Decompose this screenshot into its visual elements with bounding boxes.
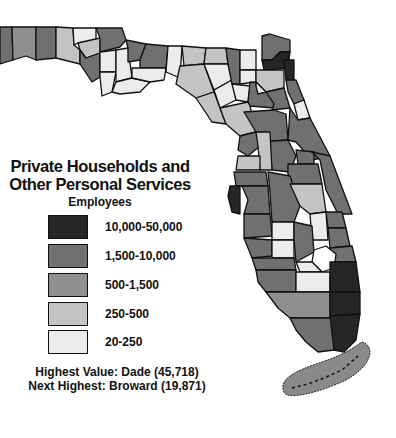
county-okaloosa — [36, 27, 56, 60]
county-seminole — [296, 150, 314, 164]
legend-item: 500-1,500 — [48, 273, 218, 301]
legend-swatch — [48, 302, 88, 326]
legend-swatch — [48, 273, 88, 297]
map-subtitle: Employees — [0, 195, 200, 209]
county-hillsborough — [242, 186, 270, 214]
map-title-line-2: Other Personal Services — [0, 175, 200, 194]
legend-swatch — [48, 215, 88, 239]
county-desoto — [272, 240, 294, 258]
county-pinellas — [228, 186, 240, 214]
legend-item: 250-500 — [48, 302, 218, 330]
county-madison — [182, 46, 206, 66]
county-palm-beach — [330, 262, 360, 292]
county-baker — [240, 50, 256, 70]
legend-label: 500-1,500 — [105, 278, 159, 292]
county-santa-rosa — [12, 27, 36, 60]
county-hernando — [236, 156, 260, 170]
county-collier — [266, 292, 330, 318]
county-indian-river — [326, 212, 346, 228]
legend-label: 250-500 — [105, 307, 149, 321]
county-escambia — [0, 27, 13, 64]
county-leon — [140, 44, 168, 68]
county-broward — [330, 292, 360, 316]
legend-item: 20-250 — [48, 330, 218, 358]
county-sarasota — [244, 238, 272, 258]
legend-swatch — [48, 330, 88, 354]
county-highlands — [294, 222, 314, 262]
legend-label: 1,500-10,000 — [105, 249, 176, 263]
county-lee — [256, 270, 296, 292]
county-charlotte — [252, 258, 296, 270]
county-st-lucie — [328, 228, 350, 248]
legend-item: 1,500-10,000 — [48, 244, 218, 272]
county-calhoun — [100, 50, 116, 72]
county-hardee — [272, 222, 294, 240]
county-manatee — [244, 214, 272, 238]
legend-swatch — [48, 244, 88, 268]
county-hamilton — [204, 48, 228, 64]
legend-label: 10,000-50,000 — [105, 220, 182, 234]
county-pasco — [234, 172, 268, 186]
county-orange — [288, 164, 322, 184]
legend-item: 10,000-50,000 — [48, 215, 218, 243]
county-st-johns-coast — [284, 60, 294, 80]
county-monroe-mainland — [290, 318, 334, 352]
legend-label: 20-250 — [105, 335, 142, 349]
county-jackson — [96, 28, 126, 52]
county-hendry — [296, 272, 330, 292]
highest-value-note: Highest Value: Dade (45,718) — [0, 365, 234, 379]
next-highest-note: Next Highest: Broward (19,871) — [0, 379, 234, 393]
map-title-line-1: Private Households and — [0, 157, 200, 176]
